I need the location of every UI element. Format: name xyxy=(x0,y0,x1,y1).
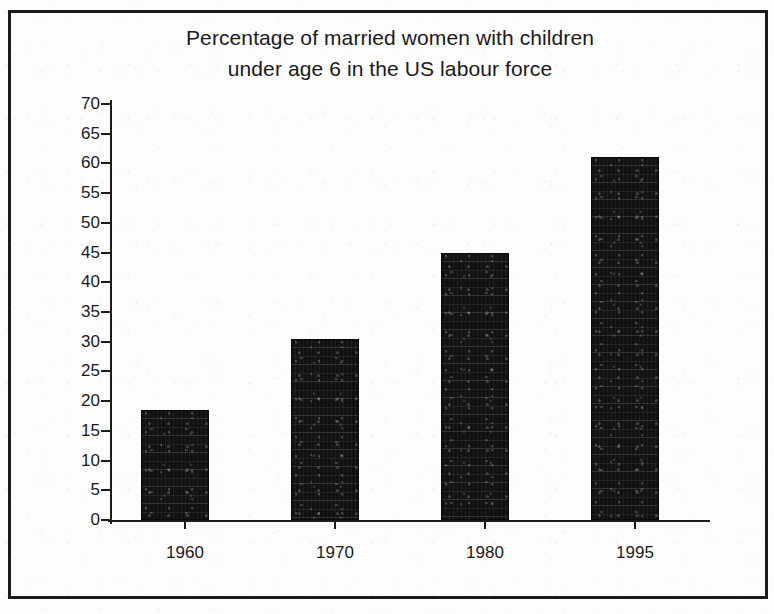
y-axis-tick-label: 0 xyxy=(64,511,100,528)
y-axis-tick xyxy=(101,519,110,521)
x-axis-tick-label: 1980 xyxy=(440,543,530,563)
chart-title-line-2: under age 6 in the US labour force xyxy=(60,53,720,84)
y-axis-tick-label: 5 xyxy=(64,481,100,498)
y-axis-line xyxy=(110,100,112,524)
y-axis-tick xyxy=(101,341,110,343)
x-axis-tick xyxy=(334,521,336,529)
bar-texture xyxy=(142,411,208,519)
x-axis-tick-label: 1995 xyxy=(590,543,680,563)
x-axis-tick-label: 1960 xyxy=(140,543,230,563)
y-axis-tick-label: 15 xyxy=(64,422,100,439)
bar-texture xyxy=(442,254,508,519)
y-axis-tick-label: 10 xyxy=(64,452,100,469)
bar-1995 xyxy=(591,157,659,520)
y-axis-tick-label: 55 xyxy=(64,184,100,201)
y-axis-tick-label: 30 xyxy=(64,333,100,350)
y-axis-tick xyxy=(101,103,110,105)
y-axis-tick xyxy=(101,430,110,432)
x-axis-line xyxy=(108,520,710,522)
x-axis-tick-label: 1970 xyxy=(290,543,380,563)
x-axis-tick xyxy=(634,521,636,529)
bar-1960 xyxy=(141,410,209,520)
y-axis-tick xyxy=(101,252,110,254)
y-axis-tick xyxy=(101,192,110,194)
bar-1980 xyxy=(441,253,509,520)
chart-title: Percentage of married women with childre… xyxy=(60,22,720,84)
y-axis-tick-label: 20 xyxy=(64,392,100,409)
y-axis-tick-label: 50 xyxy=(64,214,100,231)
y-axis-tick-label: 65 xyxy=(64,125,100,142)
y-axis-tick xyxy=(101,400,110,402)
y-axis-tick xyxy=(101,370,110,372)
y-axis-tick xyxy=(101,489,110,491)
x-axis-tick xyxy=(184,521,186,529)
chart-title-line-1: Percentage of married women with childre… xyxy=(60,22,720,53)
y-axis-tick-label: 45 xyxy=(64,244,100,261)
y-axis-tick-label: 70 xyxy=(64,95,100,112)
x-axis-tick xyxy=(484,521,486,529)
y-axis-tick xyxy=(101,460,110,462)
bar-1970 xyxy=(291,339,359,520)
y-axis-tick xyxy=(101,311,110,313)
y-axis-tick-label: 25 xyxy=(64,362,100,379)
scanned-figure-page: Percentage of married women with childre… xyxy=(0,0,774,614)
y-axis-tick-label: 40 xyxy=(64,273,100,290)
y-axis-tick-label: 60 xyxy=(64,154,100,171)
bar-texture xyxy=(592,158,658,519)
y-axis-tick-label: 35 xyxy=(64,303,100,320)
y-axis-tick xyxy=(101,222,110,224)
bar-texture xyxy=(292,340,358,519)
y-axis-tick xyxy=(101,162,110,164)
y-axis-tick xyxy=(101,281,110,283)
y-axis-tick xyxy=(101,133,110,135)
